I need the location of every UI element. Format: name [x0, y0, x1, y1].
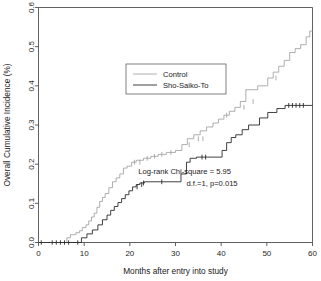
x-tick-label: 10 — [80, 249, 89, 258]
y-tick-label: 0.4 — [27, 80, 36, 92]
x-axis-title: Months after entry into study — [123, 266, 229, 276]
legend-label-sho-saiko-to: Sho-Saiko-To — [163, 81, 209, 90]
y-axis-title: Overall Cumulative Incidence (%) — [2, 63, 12, 186]
y-tick-label: 0.2 — [27, 158, 36, 170]
x-tick-label: 50 — [262, 249, 271, 258]
x-tick-label: 0 — [36, 249, 41, 258]
x-tick-label: 60 — [308, 249, 317, 258]
legend-label-control: Control — [163, 70, 188, 79]
chart-background — [0, 0, 321, 281]
y-tick-label: 0.5 — [27, 41, 36, 53]
x-tick-label: 30 — [171, 249, 180, 258]
y-tick-label: 0.0 — [27, 236, 36, 248]
y-tick-label: 0.3 — [27, 119, 36, 131]
logrank-chisquare-text: Log-rank Chi-square = 5.95 — [138, 167, 231, 176]
chart-legend[interactable]: Control Sho-Saiko-To — [126, 64, 226, 94]
degrees-freedom-pvalue-text: d.f.=1, p=0.015 — [186, 179, 237, 188]
chart-figure: 0102030405060 0.00.10.20.30.40.50.6 Mont… — [0, 0, 321, 281]
x-tick-label: 20 — [125, 249, 134, 258]
x-tick-label: 40 — [217, 249, 226, 258]
y-tick-label: 0.6 — [27, 1, 36, 13]
y-tick-label: 0.1 — [27, 197, 36, 209]
cumulative-incidence-chart: 0102030405060 0.00.10.20.30.40.50.6 Mont… — [0, 0, 321, 281]
